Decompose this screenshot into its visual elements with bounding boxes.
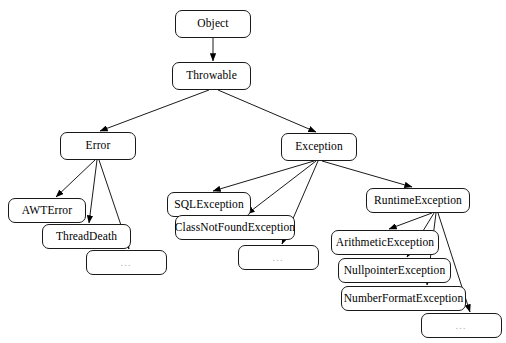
node-awterror[interactable]: AWTError (8, 198, 86, 223)
node-exception-more[interactable]: … (238, 245, 319, 270)
node-exception[interactable]: Exception (281, 133, 357, 161)
node-label-object: Object (191, 18, 234, 30)
node-label-nullpointerexception: NullpointerException (338, 265, 452, 277)
node-classnotfoundexception[interactable]: ClassNotFoundException (175, 215, 295, 240)
node-runtimeexception[interactable]: RuntimeException (366, 188, 470, 213)
class-hierarchy-diagram: ObjectThrowableErrorExceptionAWTErrorThr… (0, 0, 506, 343)
edge-exception-to-sqlexception (213, 161, 314, 191)
node-sqlexception[interactable]: SQLException (167, 192, 251, 217)
edge-error-to-threaddeath (89, 160, 97, 223)
node-label-exception-more: … (266, 252, 291, 263)
node-label-error: Error (80, 140, 117, 152)
node-label-arithmeticexception: ArithmeticException (330, 237, 440, 249)
node-label-runtimeexception: RuntimeException (368, 195, 468, 207)
node-label-runtime-more: … (449, 320, 474, 331)
node-label-awterror: AWTError (16, 205, 78, 217)
edge-error-to-awterror (56, 160, 95, 197)
node-label-classnotfoundexception: ClassNotFoundException (169, 222, 301, 234)
node-error-more[interactable]: … (86, 250, 167, 275)
node-error[interactable]: Error (60, 132, 136, 160)
edge-throwable-to-exception (218, 90, 316, 132)
node-label-throwable: Throwable (180, 70, 243, 82)
edge-exception-to-runtimeexception (322, 161, 412, 187)
node-object[interactable]: Object (175, 10, 251, 38)
edge-exception-to-classnotfoundexception (247, 161, 316, 214)
node-threaddeath[interactable]: ThreadDeath (42, 224, 131, 249)
node-label-numberformatexception: NumberFormatException (338, 293, 470, 305)
node-label-threaddeath: ThreadDeath (50, 231, 123, 243)
edge-runtimeexception-to-arithmeticexception (389, 213, 432, 229)
node-label-error-more: … (114, 257, 139, 268)
node-label-exception: Exception (289, 141, 349, 153)
edge-throwable-to-error (100, 90, 209, 131)
node-throwable[interactable]: Throwable (172, 62, 251, 90)
node-numberformatexception[interactable]: NumberFormatException (341, 286, 466, 311)
node-runtime-more[interactable]: … (421, 313, 502, 338)
node-nullpointerexception[interactable]: NullpointerException (338, 258, 451, 283)
node-label-sqlexception: SQLException (168, 199, 250, 211)
node-arithmeticexception[interactable]: ArithmeticException (331, 230, 439, 255)
